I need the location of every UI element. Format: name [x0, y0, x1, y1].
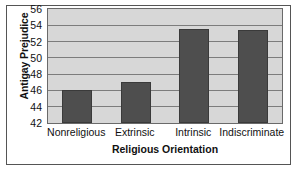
y-axis-tick-label: 56 — [22, 3, 42, 15]
plot-area — [47, 8, 283, 124]
y-axis-tick-label: 50 — [22, 52, 42, 64]
y-axis-tick-labels: 4244464850525456 — [22, 8, 42, 124]
bar — [62, 90, 92, 123]
x-axis-tick-label: Intrinsic — [175, 126, 211, 138]
x-axis-title: Religious Orientation — [47, 143, 283, 155]
x-axis-tick-labels: NonreligiousExtrinsicIntrinsicIndiscrimi… — [47, 126, 283, 140]
bar-chart-figure: Antigay Prejudice 4244464850525456 Nonre… — [0, 0, 298, 171]
y-axis-tick-label: 48 — [22, 68, 42, 80]
x-axis-tick-label: Nonreligious — [47, 126, 105, 138]
gridline — [48, 25, 282, 26]
y-axis-tick-label: 46 — [22, 84, 42, 96]
x-axis-tick-label: Extrinsic — [115, 126, 155, 138]
y-axis-tick-label: 54 — [22, 19, 42, 31]
bar — [238, 30, 268, 123]
y-axis-tick-label: 42 — [22, 117, 42, 129]
y-axis-tick-label: 52 — [22, 36, 42, 48]
y-axis-tick-label: 44 — [22, 101, 42, 113]
bar — [121, 82, 151, 123]
bar — [179, 29, 209, 123]
x-axis-tick-label: Indiscriminate — [219, 126, 284, 138]
